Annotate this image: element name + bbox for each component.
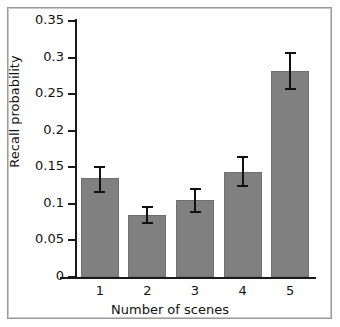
bar[interactable] bbox=[81, 178, 119, 277]
y-tick-label: 0.3 bbox=[14, 49, 64, 64]
error-bar-line bbox=[194, 188, 196, 213]
error-bar-line bbox=[289, 52, 291, 89]
error-bar-line bbox=[242, 156, 244, 187]
y-tick-label: 0.2 bbox=[14, 122, 64, 137]
y-tick-label: 0.15 bbox=[14, 158, 64, 173]
y-tick-label: 0.1 bbox=[14, 195, 64, 210]
x-tick-label: 1 bbox=[80, 283, 120, 298]
y-tick-mark bbox=[68, 203, 75, 205]
figure-container: 00.050.10.150.20.250.30.35 12345 Number … bbox=[0, 0, 340, 327]
x-tick-label: 4 bbox=[223, 283, 263, 298]
y-tick-label: 0 bbox=[14, 268, 64, 283]
error-bar-cap-lower bbox=[237, 185, 248, 187]
y-axis-spine bbox=[75, 19, 77, 278]
y-tick-label: 0.35 bbox=[14, 12, 64, 27]
error-bar-line bbox=[99, 166, 101, 193]
error-bar-cap-lower bbox=[142, 222, 153, 224]
bar[interactable] bbox=[271, 71, 309, 277]
y-tick-mark bbox=[68, 57, 75, 59]
y-tick-mark bbox=[68, 20, 75, 22]
x-tick-label: 3 bbox=[175, 283, 215, 298]
y-tick-label: 0.25 bbox=[14, 85, 64, 100]
error-bar-cap-upper bbox=[94, 166, 105, 168]
y-tick-mark bbox=[68, 276, 75, 278]
y-axis-title: Recall probability bbox=[7, 22, 22, 202]
error-bar-cap-lower bbox=[94, 191, 105, 193]
x-tick-label: 5 bbox=[270, 283, 310, 298]
error-bar-cap-lower bbox=[190, 211, 201, 213]
error-bar-cap-lower bbox=[285, 88, 296, 90]
error-bar-cap-upper bbox=[285, 52, 296, 54]
y-tick-label: 0.05 bbox=[14, 231, 64, 246]
y-tick-mark bbox=[68, 166, 75, 168]
bar[interactable] bbox=[224, 172, 262, 277]
x-tick-label: 2 bbox=[127, 283, 167, 298]
y-tick-mark bbox=[68, 239, 75, 241]
y-tick-mark bbox=[68, 93, 75, 95]
error-bar-cap-upper bbox=[190, 188, 201, 190]
x-axis-title: Number of scenes bbox=[0, 302, 340, 317]
x-axis-spine bbox=[60, 277, 316, 279]
error-bar-cap-upper bbox=[237, 156, 248, 158]
error-bar-cap-upper bbox=[142, 206, 153, 208]
y-tick-mark bbox=[68, 130, 75, 132]
